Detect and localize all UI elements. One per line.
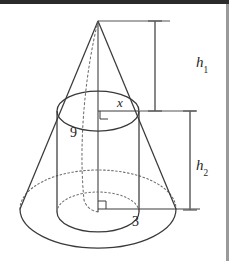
- label-h2-base: h: [196, 157, 204, 173]
- cone-cylinder-figure: [0, 0, 229, 261]
- label-3-base: 3: [132, 214, 139, 229]
- cone-hidden-slant-curve: [82, 21, 98, 212]
- cone-base-front-arc: [20, 209, 176, 248]
- label-h1-subscript: 1: [204, 65, 209, 75]
- label-9-base: 9: [70, 125, 77, 140]
- label-x-base: x: [117, 95, 123, 110]
- cone-slant-right: [98, 21, 176, 209]
- right-angle-marker-base: [98, 201, 106, 209]
- cone-slant-left: [20, 21, 98, 209]
- label-3: 3: [132, 215, 139, 229]
- diagram-page: h1 h2 x 9 3: [0, 0, 229, 261]
- label-9: 9: [70, 126, 77, 140]
- right-angle-marker-top: [100, 111, 108, 119]
- label-h1-base: h: [196, 54, 204, 70]
- cylinder-bottom-front-arc: [57, 212, 139, 232]
- label-x: x: [117, 96, 123, 109]
- label-h2-subscript: 2: [204, 168, 209, 178]
- label-h1: h1: [196, 55, 208, 73]
- label-h2: h2: [196, 158, 208, 176]
